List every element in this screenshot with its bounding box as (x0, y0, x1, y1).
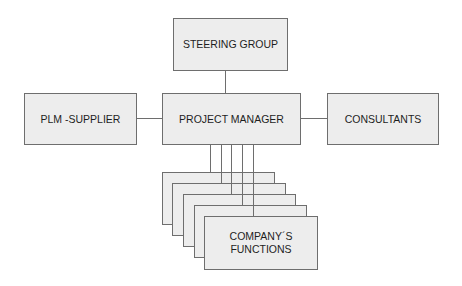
steering-group-box: STEERING GROUP (173, 18, 288, 71)
connector-steering-to-manager (225, 71, 226, 93)
connector-manager-to-function-5 (253, 145, 254, 216)
plm-supplier-box: PLM -SUPPLIER (24, 93, 137, 145)
connector-manager-to-function-1 (210, 145, 211, 172)
connector-manager-to-consultants (301, 118, 327, 119)
company-functions-label: COMPANY´S FUNCTIONS (230, 230, 293, 256)
connector-manager-to-function-4 (242, 145, 243, 205)
consultants-box: CONSULTANTS (327, 93, 439, 145)
connector-manager-to-function-3 (231, 145, 232, 194)
project-manager-label: PROJECT MANAGER (179, 113, 284, 126)
project-manager-box: PROJECT MANAGER (162, 93, 301, 145)
connector-supplier-to-manager (137, 118, 162, 119)
company-functions-box-5: COMPANY´S FUNCTIONS (204, 216, 318, 270)
connector-manager-to-function-2 (221, 145, 222, 183)
steering-group-label: STEERING GROUP (183, 38, 278, 51)
consultants-label: CONSULTANTS (345, 113, 422, 126)
plm-supplier-label: PLM -SUPPLIER (41, 113, 121, 126)
